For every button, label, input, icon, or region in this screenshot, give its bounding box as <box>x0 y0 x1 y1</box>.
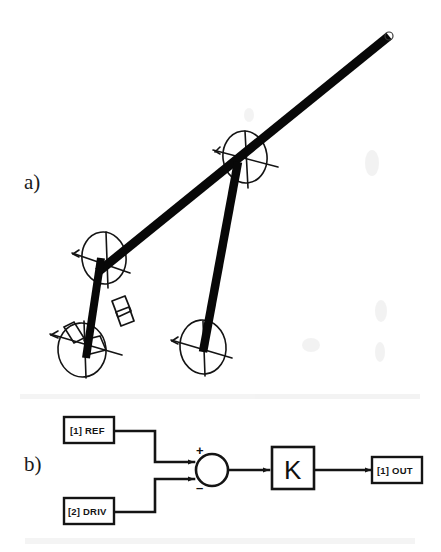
input-ref-block[interactable]: [1] REF <box>64 417 114 443</box>
output-block-label: [1] OUT <box>377 465 413 476</box>
input-ref-block-label: [1] REF <box>70 425 105 436</box>
panel-b-block-diagram: + – [1] REF [2] DRIV K [1] OUT <box>0 0 441 552</box>
wire-ref-to-sum <box>113 431 194 462</box>
wire-driv-to-sum <box>113 479 194 512</box>
input-driv-block[interactable]: [2] DRIV <box>64 498 114 524</box>
input-driv-block-label: [2] DRIV <box>68 506 107 517</box>
gain-block-label: K <box>284 455 302 485</box>
panel-label-b: b) <box>24 452 42 477</box>
summing-minus-sign: – <box>196 480 203 495</box>
summing-plus-sign: + <box>196 443 204 458</box>
gain-block[interactable]: K <box>272 447 314 489</box>
signal-wires <box>113 431 371 512</box>
figure-container: a) + – [1] REF [2] DRIV <box>0 0 441 552</box>
output-block[interactable]: [1] OUT <box>372 457 422 483</box>
